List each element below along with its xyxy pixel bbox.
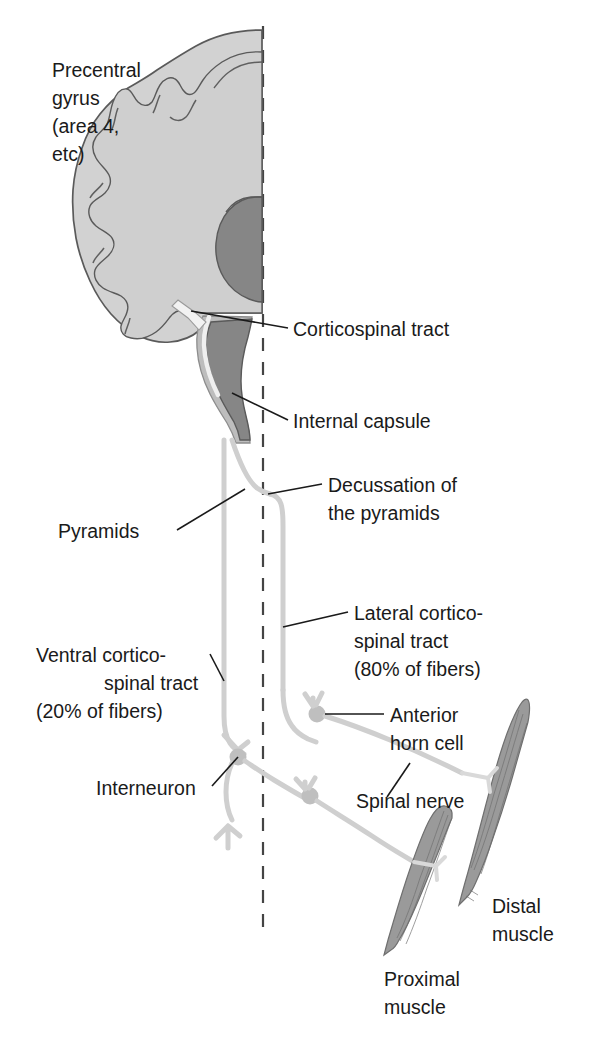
label-anterior-horn-cell-line2: horn cell: [390, 732, 464, 754]
label-distal-muscle-line1: Distal: [492, 895, 541, 917]
label-ventral-tract-line3: (20% of fibers): [36, 700, 163, 722]
decussation-crossing-fiber: [270, 494, 283, 690]
leader-lateral-tract: [283, 612, 348, 627]
label-ventral-tract-line2: spinal tract: [104, 672, 199, 694]
label-lateral-tract-line3: (80% of fibers): [354, 658, 481, 680]
label-corticospinal-tract: Corticospinal tract: [293, 318, 450, 340]
label-precentral-gyrus-line2: gyrus: [52, 87, 100, 109]
ventral-corticospinal-tract-path: [224, 440, 244, 754]
label-distal-muscle-line2: muscle: [492, 923, 554, 945]
label-internal-capsule: Internal capsule: [293, 410, 431, 432]
ventral-tract-terminal-branch: [224, 735, 248, 750]
proximal-muscle-shape: [384, 806, 452, 955]
label-precentral-gyrus-line1: Precentral: [52, 59, 141, 81]
label-anterior-horn-cell-line1: Anterior: [390, 704, 459, 726]
interneuron-descending-dendrite: [226, 763, 232, 820]
tract-main-descending: [232, 440, 270, 494]
distal-muscle-shape: [459, 699, 530, 905]
label-interneuron: Interneuron: [96, 777, 196, 799]
anterior-horn-cell-soma: [309, 706, 326, 723]
anterior-horn-cell-dendrite: [305, 693, 322, 706]
label-ventral-tract-line1: Ventral cortico-: [36, 644, 166, 666]
label-precentral-gyrus-line4: etc): [52, 143, 85, 165]
leader-pyramids: [177, 489, 245, 530]
corticospinal-tract-diagram: Precentral gyrus (area 4, etc) Corticosp…: [0, 0, 591, 1040]
label-proximal-muscle-line1: Proximal: [384, 968, 460, 990]
label-pyramids: Pyramids: [58, 520, 140, 542]
brainstem: [197, 316, 252, 443]
label-proximal-muscle-line2: muscle: [384, 996, 446, 1018]
leader-decussation: [268, 484, 322, 494]
label-spinal-nerve: Spinal nerve: [356, 790, 464, 812]
anterior-horn-cell-2-dendrite: [296, 778, 315, 789]
interneuron-lower-branch: [216, 826, 240, 848]
label-lateral-tract-line1: Lateral cortico-: [354, 602, 483, 624]
label-decussation-line2: the pyramids: [328, 502, 440, 524]
label-decussation-line1: Decussation of: [328, 474, 458, 496]
label-precentral-gyrus-line3: (area 4,: [52, 115, 119, 137]
label-lateral-tract-line2: spinal tract: [354, 630, 449, 652]
